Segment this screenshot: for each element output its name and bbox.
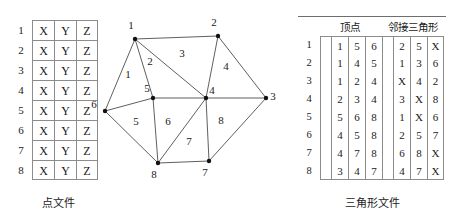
- mesh-triangle-label-group: 12345678: [125, 47, 229, 147]
- triangle-cell-spacer-middle: [382, 144, 393, 162]
- triangle-vertex-cell: 4: [331, 126, 348, 144]
- points-cell: X: [32, 120, 54, 140]
- mesh-vertex-node: [264, 96, 268, 100]
- triangle-row-index: 1: [298, 36, 320, 54]
- triangle-vertex-cell: 2: [348, 72, 365, 90]
- triangle-vertex-cell: 8: [365, 108, 382, 126]
- mesh-vertex-label: 6: [91, 98, 97, 110]
- triangle-adjacent-cell: 5: [410, 126, 427, 144]
- mesh-triangle-label: 6: [165, 115, 171, 127]
- triangle-table-row: 834747X: [298, 162, 446, 180]
- triangle-table-row: 6458257: [298, 126, 446, 144]
- triangle-table-header: 顶点 邻接三角形: [298, 20, 446, 36]
- triangle-vertex-cell: 4: [331, 144, 348, 162]
- triangle-row-index: 3: [298, 72, 320, 90]
- mesh-vertex-node: [156, 161, 160, 165]
- points-row-index: 6: [10, 120, 32, 140]
- triangle-row-cells: 15625X: [320, 36, 444, 54]
- mesh-edge: [206, 98, 209, 161]
- triangle-row-index: 8: [298, 162, 320, 180]
- points-row-index: 5: [10, 100, 32, 120]
- triangle-row-cells: 458257: [320, 126, 444, 144]
- triangle-cell-spacer-middle: [382, 54, 393, 72]
- triangle-adjacent-cell: 5: [410, 36, 427, 54]
- triangle-row-cells: 5681X6: [320, 108, 444, 126]
- points-cell: X: [32, 160, 54, 180]
- mesh-edge: [105, 111, 158, 163]
- points-row-cells: XYZ: [32, 120, 98, 140]
- mesh-vertex-label: 8: [151, 168, 157, 180]
- points-cell: X: [32, 60, 54, 80]
- triangle-cell-spacer-left: [320, 36, 331, 54]
- points-cell: Y: [54, 80, 76, 100]
- triangle-adjacent-cell: 2: [393, 36, 410, 54]
- triangle-row-cells: 47868X: [320, 144, 444, 162]
- mesh-triangle-label: 2: [147, 55, 153, 67]
- points-cell: Y: [54, 20, 76, 40]
- triangle-cell-spacer-left: [320, 108, 331, 126]
- mesh-vertex-label: 5: [144, 82, 150, 94]
- triangle-table-row: 3124X42: [298, 72, 446, 90]
- triangle-vertex-cell: 5: [348, 36, 365, 54]
- points-row-index: 2: [10, 40, 32, 60]
- triangle-cell-spacer-left: [320, 72, 331, 90]
- triangle-adjacent-cell: X: [410, 108, 427, 126]
- triangle-vertex-cell: 1: [331, 72, 348, 90]
- points-cell: Y: [54, 160, 76, 180]
- points-row-cells: XYZ: [32, 40, 98, 60]
- triangle-vertex-cell: 6: [348, 108, 365, 126]
- triangle-file-caption: 三角形文件: [298, 194, 446, 210]
- triangle-adjacent-cell: X: [427, 162, 444, 180]
- mesh-svg: 12345678 12345678: [90, 6, 290, 186]
- triangle-adjacent-cell: 8: [410, 144, 427, 162]
- triangle-row-cells: 124X42: [320, 72, 444, 90]
- triangle-cell-spacer-middle: [382, 162, 393, 180]
- mesh-vertex-node: [216, 34, 220, 38]
- triangle-vertex-cell: 4: [348, 54, 365, 72]
- points-cell: X: [32, 140, 54, 160]
- mesh-triangle-label: 5: [133, 115, 139, 127]
- triangle-table-row: 2145136: [298, 54, 446, 72]
- triangle-vertex-cell: 3: [331, 162, 348, 180]
- header-adjacent: 邻接三角形: [380, 20, 446, 36]
- triangle-vertex-cell: 5: [348, 126, 365, 144]
- mesh-vertex-node: [103, 109, 107, 113]
- mesh-edge: [105, 98, 153, 111]
- triangle-cell-spacer-left: [320, 90, 331, 108]
- mesh-triangle-label: 3: [179, 47, 185, 59]
- mesh-edge: [158, 161, 209, 163]
- header-vertex: 顶点: [320, 20, 380, 36]
- triangle-adjacent-cell: X: [427, 144, 444, 162]
- triangle-table-row: 115625X: [298, 36, 446, 54]
- triangle-table-row: 42343X8: [298, 90, 446, 108]
- triangle-adjacent-cell: 6: [393, 144, 410, 162]
- points-row-index: 8: [10, 160, 32, 180]
- mesh-edge: [158, 98, 206, 163]
- mesh-vertex-label: 7: [202, 166, 208, 178]
- mesh-vertex-label: 2: [211, 16, 217, 28]
- triangle-adjacent-cell: 8: [427, 90, 444, 108]
- triangle-file-table: 顶点 邻接三角形 115625X21451363124X4242343X8556…: [298, 16, 446, 180]
- triangle-adjacent-cell: X: [393, 72, 410, 90]
- triangle-table-body: 115625X21451363124X4242343X855681X664582…: [298, 36, 446, 180]
- triangle-row-cells: 2343X8: [320, 90, 444, 108]
- mesh-vertex-node: [207, 159, 211, 163]
- points-row-cells: XYZ: [32, 80, 98, 100]
- triangle-vertex-cell: 8: [365, 144, 382, 162]
- triangle-vertex-cell: 7: [348, 144, 365, 162]
- mesh-vertex-node: [133, 37, 137, 41]
- triangle-cell-spacer-middle: [382, 90, 393, 108]
- points-row-index: 1: [10, 20, 32, 40]
- triangle-cell-spacer-left: [320, 162, 331, 180]
- triangle-vertex-cell: 4: [365, 72, 382, 90]
- mesh-triangle-label: 8: [218, 114, 224, 126]
- triangle-adjacent-cell: X: [427, 36, 444, 54]
- triangle-cell-spacer-left: [320, 54, 331, 72]
- mesh-diagram: 12345678 12345678: [90, 6, 290, 186]
- triangle-vertex-cell: 4: [365, 90, 382, 108]
- triangle-adjacent-cell: 4: [393, 162, 410, 180]
- mesh-edge: [153, 98, 158, 163]
- mesh-triangle-label: 7: [186, 135, 192, 147]
- triangle-vertex-cell: 3: [348, 90, 365, 108]
- triangle-vertex-cell: 5: [331, 108, 348, 126]
